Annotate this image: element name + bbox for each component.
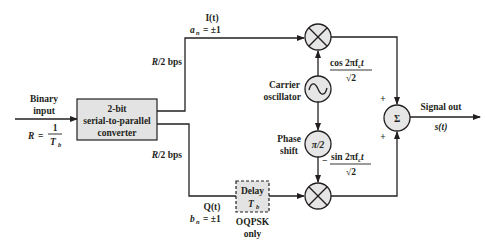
i-signal-label: I(t) — [205, 13, 218, 24]
delay-block: Delay T b OQPSK only — [236, 181, 304, 239]
rate-num: 1 — [53, 123, 58, 133]
rate-den: T — [50, 137, 57, 147]
binary-input-label-2: input — [33, 106, 55, 116]
binary-input-label-1: Binary — [30, 94, 58, 104]
oscillator-label-2: oscillator — [264, 92, 302, 102]
sin-sign: − — [322, 156, 327, 166]
phase-shifter: π/2 Phase shift − sin 2πfct √2 — [277, 131, 371, 182]
b-n-value: = ±1 — [203, 214, 221, 224]
sigma-icon: Σ — [394, 114, 400, 124]
lower-rate-label: R/2 bps — [151, 150, 183, 160]
phase-shift-label-1: Phase — [277, 134, 301, 144]
lower-branch: R/2 bps Q(t) b n = ±1 — [151, 124, 236, 225]
a-n-symbol: a — [190, 25, 195, 35]
b-n-sub: n — [196, 218, 200, 225]
q-path-line — [157, 124, 236, 196]
carrier-oscillator: Carrier oscillator cos 2πfct √2 — [264, 51, 372, 130]
oqpsk-note-1: OQPSK — [236, 217, 270, 227]
phase-shift-label-2: shift — [280, 146, 299, 156]
a-n-value: = ±1 — [203, 25, 221, 35]
oqpsk-note-2: only — [244, 229, 262, 239]
delay-label: Delay — [241, 186, 264, 196]
s-t-label: s(t) — [434, 122, 448, 133]
q-signal-label: Q(t) — [204, 202, 221, 213]
rate-lhs: R — [27, 131, 34, 141]
sin-numerator: sin 2πfct — [331, 152, 364, 163]
summer: Σ + + — [380, 94, 410, 142]
oscillator-label-1: Carrier — [269, 80, 301, 90]
b-n-symbol: b — [190, 214, 195, 224]
sin-denominator: √2 — [346, 167, 356, 177]
upper-mixer-to-sum-arrow — [331, 37, 397, 104]
binary-input: Binary input R = 1 T b — [15, 94, 77, 148]
cos-numerator: cos 2πfct — [330, 58, 364, 69]
plus-bottom: + — [380, 132, 385, 142]
signal-output: Signal out s(t) — [410, 102, 480, 133]
converter-label-3: converter — [97, 128, 137, 138]
converter-label-1: 2-bit — [108, 104, 128, 114]
serial-to-parallel-converter: 2-bit serial-to-parallel converter — [77, 99, 157, 140]
cos-denominator: √2 — [346, 73, 356, 83]
upper-rate-label: R/2 bps — [151, 57, 183, 67]
signal-out-label: Signal out — [421, 102, 463, 112]
qpsk-modulator-diagram: Binary input R = 1 T b 2-bit serial-to-p… — [0, 0, 485, 250]
a-n-sub: n — [196, 29, 200, 36]
phase-shift-symbol: π/2 — [312, 140, 325, 150]
rate-eq: = — [38, 131, 43, 141]
converter-label-2: serial-to-parallel — [83, 116, 151, 126]
rate-den-sub: b — [58, 141, 62, 148]
plus-top: + — [380, 94, 385, 104]
